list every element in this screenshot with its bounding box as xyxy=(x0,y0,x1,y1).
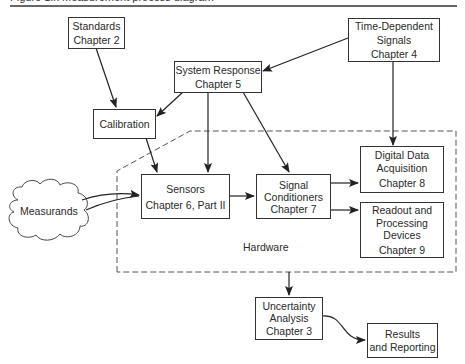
node-measurands: Measurands xyxy=(20,205,78,217)
node-label: Conditioners xyxy=(264,191,323,203)
node-label: Standards xyxy=(73,19,121,33)
node-label: Processing xyxy=(376,217,428,230)
node-label: Time-Dependent xyxy=(355,19,433,33)
node-label: and Reporting xyxy=(370,341,436,354)
node-label: Acquisition xyxy=(377,162,428,175)
node-chapter: Chapter 5 xyxy=(195,77,241,91)
node-chapter: Chapter 4 xyxy=(371,47,417,61)
node-label: Devices xyxy=(383,229,420,242)
node-results-reporting: Results and Reporting xyxy=(367,323,438,358)
node-label: Calibration xyxy=(99,117,149,131)
node-chapter: Chapter 7 xyxy=(270,203,316,215)
node-label: Signal xyxy=(279,179,308,191)
figure-caption: Figure 1.x Measurement process diagram xyxy=(10,0,214,3)
node-uncertainty-analysis: Uncertainty Analysis Chapter 3 xyxy=(255,297,323,340)
node-label: Digital Data xyxy=(375,149,429,162)
hardware-label: Hardware xyxy=(243,241,289,253)
node-standards: Standards Chapter 2 xyxy=(68,17,125,49)
node-system-response: System Response Chapter 5 xyxy=(174,61,262,93)
node-chapter: Chapter 2 xyxy=(73,33,119,47)
node-time-dependent-signals: Time-Dependent Signals Chapter 4 xyxy=(348,18,440,62)
node-chapter: Chapter 6, Part II xyxy=(146,198,226,212)
node-chapter: Chapter 9 xyxy=(379,244,425,257)
node-label: Analysis xyxy=(269,312,308,325)
node-signal-conditioners: Signal Conditioners Chapter 7 xyxy=(256,174,331,219)
node-calibration: Calibration xyxy=(93,109,156,139)
node-chapter: Chapter 8 xyxy=(379,177,425,190)
node-sensors: Sensors Chapter 6, Part II xyxy=(141,174,230,219)
node-label: Sensors xyxy=(166,182,205,196)
node-label: Readout and xyxy=(372,204,432,217)
node-chapter: Chapter 3 xyxy=(266,325,312,338)
node-digital-data-acquisition: Digital Data Acquisition Chapter 8 xyxy=(360,146,444,193)
node-label: Uncertainty xyxy=(262,300,315,313)
node-label: Signals xyxy=(377,33,411,47)
node-label: System Response xyxy=(175,63,260,77)
node-label: Results xyxy=(385,328,420,341)
node-readout-processing-devices: Readout and Processing Devices Chapter 9 xyxy=(360,202,444,258)
